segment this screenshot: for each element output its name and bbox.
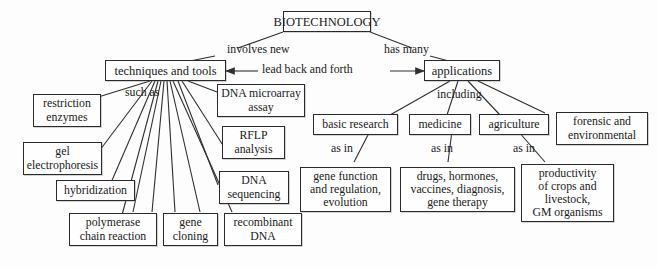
edge-label-as-in-basic-research: as in	[331, 143, 353, 155]
edge-label-lead-back-and-forth: lead back and forth	[262, 64, 353, 76]
node-restriction-enzymes[interactable]: restriction enzymes	[33, 94, 101, 127]
node-hybridization[interactable]: hybridization	[56, 180, 135, 201]
node-forensic-and-environmental[interactable]: forensic and environmental	[556, 112, 648, 145]
node-basic-research[interactable]: basic research	[313, 114, 398, 135]
node-biotechnology[interactable]: BIOTECHNOLOGY	[283, 11, 371, 32]
edge-label-including: including	[437, 89, 482, 101]
edge-label-such-as: such as	[125, 87, 159, 99]
node-gel-electrophoresis[interactable]: gel electrophoresis	[23, 142, 102, 175]
node-gene-function-regulation-evolution[interactable]: gene function and regulation, evolution	[300, 167, 391, 212]
node-agriculture[interactable]: agriculture	[479, 114, 549, 135]
node-drugs-hormones-vaccines[interactable]: drugs, hormones, vaccines, diagnosis, ge…	[400, 167, 515, 212]
edge-label-as-in-medicine: as in	[431, 143, 453, 155]
node-gene-cloning[interactable]: gene cloning	[163, 213, 218, 246]
concept-map-canvas: BIOTECHNOLOGY techniques and tools appli…	[0, 0, 658, 267]
node-dna-microarray-assay[interactable]: DNA microarray assay	[217, 84, 305, 117]
node-medicine[interactable]: medicine	[409, 114, 471, 135]
node-productivity-crops-livestock[interactable]: productivity of crops and livestock, GM …	[521, 164, 614, 222]
node-recombinant-dna[interactable]: recombinant DNA	[224, 213, 302, 246]
edge-label-involves-new: involves new	[227, 44, 290, 56]
node-rflp-analysis[interactable]: RFLP analysis	[222, 126, 285, 159]
node-applications[interactable]: applications	[424, 60, 500, 81]
edge-label-has-many: has many	[384, 44, 429, 56]
edge-label-as-in-agriculture: as in	[513, 143, 535, 155]
node-polymerase-chain-reaction[interactable]: polymerase chain reaction	[69, 213, 157, 246]
node-techniques-and-tools[interactable]: techniques and tools	[105, 60, 226, 81]
node-dna-sequencing[interactable]: DNA sequencing	[219, 171, 289, 204]
